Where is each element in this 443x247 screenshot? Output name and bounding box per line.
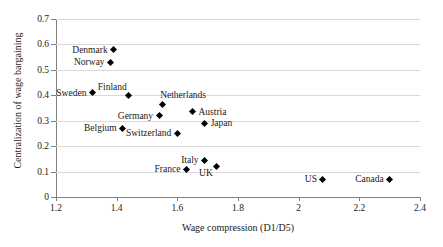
x-axis-title: Wage compression (D1/D5): [56, 222, 420, 234]
gridline-y: [56, 44, 420, 45]
data-point-marker: [213, 163, 220, 170]
x-axis-tick-label: 1.6: [157, 203, 197, 214]
data-point-marker: [174, 130, 181, 137]
data-point-label: Norway: [45, 57, 105, 67]
data-point-label: Switzerland: [111, 128, 171, 138]
gridline-y: [56, 121, 420, 122]
y-axis-title-container: Centralization of wage bargaining: [0, 0, 14, 210]
y-axis-tick-label-wrap: 0: [0, 192, 49, 202]
y-axis-tick-label: 0: [5, 192, 49, 202]
x-axis-tick: [299, 197, 300, 201]
data-point-marker: [201, 157, 208, 164]
data-point-label: US: [257, 174, 317, 184]
x-axis-tick: [117, 197, 118, 201]
x-axis-tick-label: 1.2: [36, 203, 76, 214]
x-axis-tick: [420, 197, 421, 201]
x-axis-tick: [177, 197, 178, 201]
data-point-marker: [156, 112, 163, 119]
x-axis-tick: [56, 197, 57, 201]
y-axis-tick-label-wrap: 0.5: [0, 65, 49, 75]
scatter-chart-figure: Centralization of wage bargaining 00.10.…: [0, 0, 443, 247]
data-point-marker: [189, 108, 196, 115]
data-point-label: Netherlands: [160, 90, 206, 100]
gridline-y: [56, 95, 420, 96]
data-point-label: Sweden: [26, 88, 86, 98]
data-point-label: Denmark: [48, 45, 108, 55]
data-point-label: Canada: [324, 174, 384, 184]
x-axis-tick-label: 1.4: [97, 203, 137, 214]
gridline-y: [56, 146, 420, 147]
y-axis-tick-label-wrap: 0.7: [0, 14, 49, 24]
x-axis-tick: [359, 197, 360, 201]
x-axis-tick-label: 2.4: [400, 203, 440, 214]
y-axis-tick-label: 0.2: [5, 141, 49, 151]
y-axis-tick-label-wrap: 0.1: [0, 167, 49, 177]
y-axis-tick-label: 0.6: [5, 39, 49, 49]
data-point-label: Finland: [87, 82, 127, 92]
data-point-label: Austria: [199, 107, 227, 117]
data-point-marker: [125, 92, 132, 99]
gridline-y: [56, 70, 420, 71]
x-axis-tick: [238, 197, 239, 201]
x-axis-tick-label: 2: [279, 203, 319, 214]
data-point-label: UK: [175, 168, 213, 178]
y-axis-tick-label-wrap: 0.6: [0, 39, 49, 49]
x-axis-tick-label: 2.2: [339, 203, 379, 214]
y-axis-tick-label-wrap: 0.2: [0, 141, 49, 151]
gridline-y: [56, 172, 420, 173]
data-point-marker: [110, 46, 117, 53]
data-point-label: Belgium: [57, 123, 117, 133]
y-axis-tick-label: 0.7: [5, 14, 49, 24]
data-point-label: France: [120, 164, 180, 174]
data-point-label: Germany: [93, 111, 153, 121]
data-point-label: Japan: [211, 118, 233, 128]
y-axis-tick-label: 0.5: [5, 65, 49, 75]
y-axis-tick-label-wrap: 0.3: [0, 116, 49, 126]
gridline-y: [56, 19, 420, 20]
y-axis-tick-label: 0.1: [5, 167, 49, 177]
y-axis-tick-label: 0.3: [5, 116, 49, 126]
data-point-marker: [159, 101, 166, 108]
data-point-marker: [386, 176, 393, 183]
x-axis-tick-label: 1.8: [218, 203, 258, 214]
plot-area: DenmarkNorwaySwedenFinlandNetherlandsAus…: [56, 19, 420, 197]
data-point-marker: [107, 59, 114, 66]
